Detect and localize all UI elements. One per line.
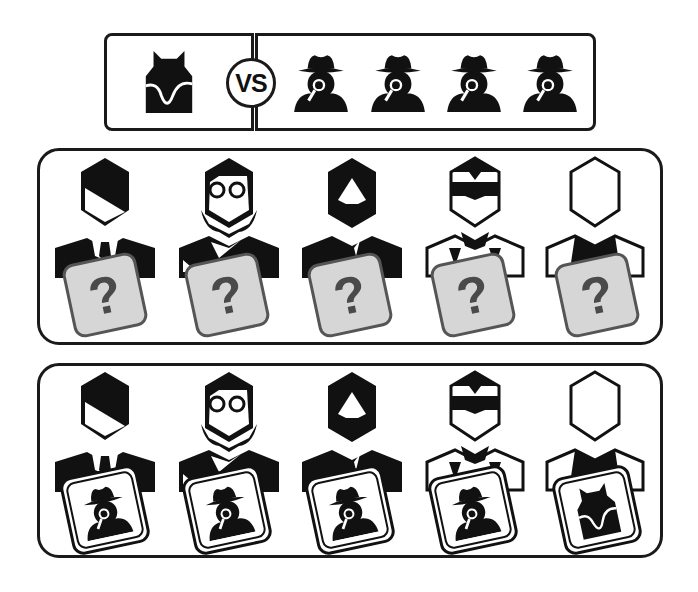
player-2-hidden <box>179 158 279 338</box>
player-3-revealed <box>302 372 402 555</box>
player-2-revealed <box>179 372 279 555</box>
player-figures: ? <box>0 0 698 592</box>
player-1-hidden <box>55 158 155 338</box>
player-5-hidden <box>547 158 643 338</box>
player-5-revealed <box>547 372 643 555</box>
player-4-hidden <box>427 158 523 338</box>
player-4-revealed <box>427 372 523 555</box>
player-1-revealed <box>55 372 155 555</box>
player-3-hidden <box>302 158 402 338</box>
